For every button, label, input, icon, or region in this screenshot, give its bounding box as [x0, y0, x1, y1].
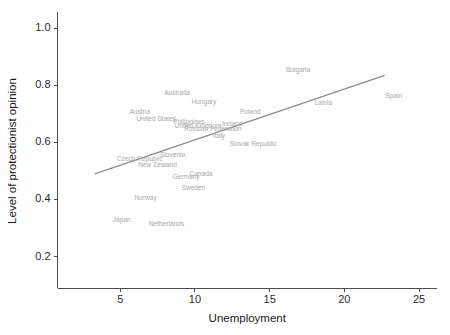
y-tick-label: 0.6: [35, 135, 50, 147]
data-point-label: Italy: [213, 132, 226, 140]
data-point-label: United States: [136, 115, 176, 122]
data-point-label: New Zealand: [138, 161, 177, 168]
scatter-plot-figure: 0.20.40.60.81.0510152025UnemploymentLeve…: [0, 0, 450, 335]
plot-canvas: 0.20.40.60.81.0510152025UnemploymentLeve…: [0, 0, 450, 335]
data-point-label: Japan: [113, 216, 131, 224]
x-tick-label: 10: [189, 293, 201, 305]
data-point-label: Hungary: [191, 98, 217, 106]
data-point-label: Norway: [134, 194, 157, 202]
data-point-label: Germany: [172, 173, 200, 181]
data-point-label: Spain: [385, 92, 402, 100]
data-point-label: Slovenia: [160, 151, 186, 158]
x-axis-title: Unemployment: [209, 312, 287, 324]
y-tick-label: 0.4: [35, 192, 50, 204]
x-tick-label: 5: [117, 293, 123, 305]
data-point-label: Bulgaria: [286, 66, 311, 74]
data-point-label: Latvia: [315, 99, 333, 106]
y-tick-label: 0.2: [35, 250, 50, 262]
y-axis-title: Level of protectionist opinion: [6, 78, 18, 224]
data-point-label: Netherlands: [149, 220, 185, 227]
x-tick-label: 15: [264, 293, 276, 305]
data-point-label: Austria: [129, 108, 150, 115]
data-point-label: Poland: [240, 108, 261, 115]
y-tick-label: 1.0: [35, 21, 50, 33]
x-tick-label: 20: [338, 293, 350, 305]
x-tick-label: 25: [413, 293, 425, 305]
data-point-label: Australia: [164, 89, 190, 96]
data-point-label: Sweden: [182, 184, 206, 191]
y-tick-label: 0.8: [35, 78, 50, 90]
data-point-label: Slovak Republic: [230, 140, 278, 148]
